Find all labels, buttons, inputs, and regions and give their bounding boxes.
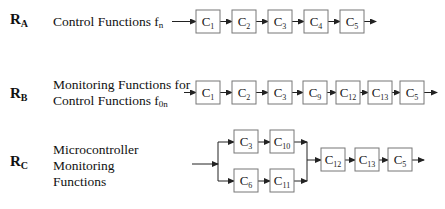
component-box-c9: C9 bbox=[303, 81, 327, 104]
component-box-c5: C5 bbox=[400, 81, 424, 104]
component-box-c3: C3 bbox=[234, 130, 258, 153]
component-box-c6: C6 bbox=[234, 169, 258, 192]
component-box-c2: C2 bbox=[232, 81, 256, 104]
component-box-c12: C12 bbox=[321, 148, 345, 171]
component-box-c5: C5 bbox=[340, 10, 364, 33]
component-box-c11: C11 bbox=[270, 169, 294, 192]
component-box-c10: C10 bbox=[270, 130, 294, 153]
component-box-c1: C1 bbox=[196, 10, 220, 33]
component-box-c1: C1 bbox=[196, 81, 220, 104]
component-box-c12: C12 bbox=[336, 81, 360, 104]
component-box-c4: C4 bbox=[304, 10, 328, 33]
component-box-c13: C13 bbox=[368, 81, 392, 104]
component-box-c2: C2 bbox=[232, 10, 256, 33]
block-diagram: C1C2C3C4C5C1C2C3C9C12C13C5C3C10C6C11C12C… bbox=[0, 0, 445, 209]
component-box-c3: C3 bbox=[268, 10, 292, 33]
component-box-c13: C13 bbox=[355, 148, 379, 171]
component-box-c3: C3 bbox=[268, 81, 292, 104]
component-box-c5: C5 bbox=[388, 148, 412, 171]
